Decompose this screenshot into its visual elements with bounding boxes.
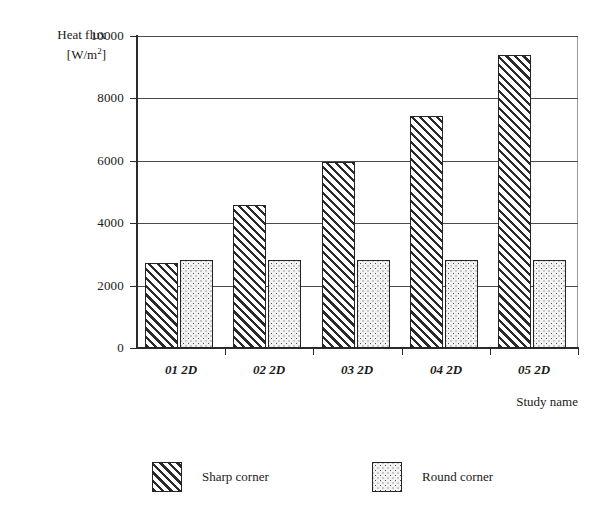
legend-label-sharp-corner: Sharp corner xyxy=(202,469,269,485)
y-tick-label-text: 4000 xyxy=(66,215,124,231)
x-tick-mark xyxy=(578,349,579,355)
y-tick-label: 6000 xyxy=(66,153,124,167)
x-tick-mark xyxy=(402,349,403,355)
x-tick-mark xyxy=(225,349,226,355)
y-tick-mark xyxy=(130,98,138,99)
x-tick-mark xyxy=(490,349,491,355)
y-tick-mark xyxy=(130,36,138,37)
bar-round-corner xyxy=(533,260,566,348)
y-tick-label: 2000 xyxy=(66,278,124,292)
y-tick-label-text: 0 xyxy=(66,340,124,356)
bar-sharp-corner xyxy=(145,263,178,348)
legend-swatch-round-corner-icon xyxy=(372,462,402,492)
bar-sharp-corner xyxy=(233,205,266,348)
bar-round-corner xyxy=(268,260,301,348)
y-tick-label: 8000 xyxy=(66,90,124,104)
y-axis-title-line2: [W/m2] xyxy=(14,43,106,63)
y-tick-label: 4000 xyxy=(66,215,124,229)
x-axis-title: Study name xyxy=(470,394,578,410)
y-tick-label: 0 xyxy=(66,340,124,354)
heat-flux-bar-chart: Heat flux [W/m2] 0200040006000800010000 … xyxy=(0,0,610,519)
bar-round-corner xyxy=(445,260,478,348)
y-tick-label-text: 6000 xyxy=(66,153,124,169)
legend-label-round-corner: Round corner xyxy=(422,469,493,485)
legend-entry-sharp-corner: Sharp corner xyxy=(152,460,269,494)
bar-round-corner xyxy=(180,260,213,348)
x-tick-mark xyxy=(313,349,314,355)
bar-sharp-corner xyxy=(498,55,531,348)
bar-sharp-corner xyxy=(322,162,355,348)
y-axis-units-prefix: [W/m xyxy=(67,47,97,62)
y-tick-mark xyxy=(130,348,138,349)
y-tick-label: 10000 xyxy=(66,28,124,42)
y-axis-line xyxy=(136,35,138,349)
legend-entry-round-corner: Round corner xyxy=(372,460,493,494)
y-tick-label-text: 2000 xyxy=(66,278,124,294)
gridline xyxy=(137,36,578,37)
chart-legend: Sharp corner Round corner xyxy=(0,460,610,500)
bar-sharp-corner xyxy=(410,116,443,348)
x-axis-category-label: 01 2D xyxy=(137,362,225,378)
y-tick-mark xyxy=(130,223,138,224)
x-axis-category-label: 02 2D xyxy=(225,362,313,378)
y-tick-mark xyxy=(130,161,138,162)
y-axis-units-suffix: ] xyxy=(102,47,106,62)
bar-round-corner xyxy=(357,260,390,348)
y-tick-label-text: 8000 xyxy=(66,90,124,106)
legend-swatch-sharp-corner-icon xyxy=(152,462,182,492)
x-axis-category-label: 05 2D xyxy=(490,362,578,378)
x-axis-category-label: 04 2D xyxy=(402,362,490,378)
y-tick-label-text: 10000 xyxy=(66,28,124,44)
y-tick-mark xyxy=(130,286,138,287)
x-axis-category-label: 03 2D xyxy=(313,362,401,378)
